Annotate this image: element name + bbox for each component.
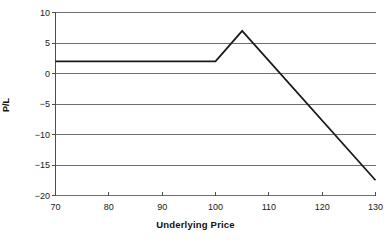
y-tick-label-10: 10: [22, 8, 50, 18]
x-axis-title: Underlying Price: [0, 219, 391, 230]
y-tick-marks: [52, 13, 56, 196]
y-axis-title: P/L: [1, 98, 11, 112]
x-tick-label-70: 70: [50, 202, 60, 212]
y-tick-label-5: 5: [22, 38, 50, 48]
y-tick-label--10: −10: [22, 130, 50, 140]
y-tick-label--20: −20: [22, 191, 50, 201]
y-tick-label--5: −5: [22, 99, 50, 109]
y-tick-label-0: 0: [22, 69, 50, 79]
x-tick-label-130: 130: [368, 202, 383, 212]
x-tick-label-80: 80: [104, 202, 114, 212]
x-tick-label-90: 90: [157, 202, 167, 212]
x-tick-label-110: 110: [262, 202, 276, 212]
series-line-0: [56, 31, 376, 180]
data-series-line: [56, 31, 376, 180]
x-tick-label-100: 100: [208, 202, 223, 212]
gridlines: [56, 13, 376, 196]
y-tick-label--15: −15: [22, 160, 50, 170]
chart-container: 1050−5−10−15−20 708090100110120130 P/L U…: [0, 0, 391, 241]
x-tick-label-120: 120: [315, 202, 330, 212]
x-tick-marks: [56, 192, 376, 196]
